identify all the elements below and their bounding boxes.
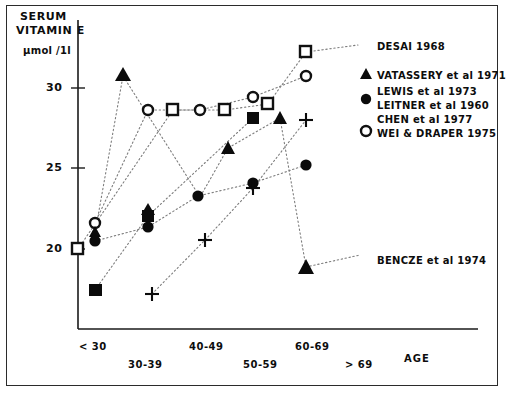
point-lewis-1 [89,284,102,296]
point-leitner-2 [142,221,153,232]
point-vatassery-6 [298,259,314,274]
series-line-bencze-tail [306,255,360,267]
legend-marker-filled-circle-icon [361,94,371,104]
point-desai-4 [262,98,273,109]
point-leitner-3 [192,190,203,201]
marker-group-desai [72,46,311,254]
legend-marker-triangle-icon [360,68,372,79]
point-vatassery-4 [221,141,235,154]
series-line-desai [78,52,306,249]
point-vatassery-5 [273,111,287,124]
point-leitner-1 [89,235,100,246]
point-wei-3 [195,105,205,115]
point-leitner-5 [300,159,311,170]
marker-group-chen [145,113,313,301]
point-desai-1 [72,243,83,254]
marker-group-vatassery [89,67,314,274]
legend-marker-open-circle-icon [361,126,371,136]
point-lewis-3 [247,112,259,124]
marker-group-wei-draper [90,71,311,228]
point-desai-2 [167,104,178,115]
point-vatassery-2 [115,67,131,81]
series-line-leitner [95,165,306,241]
point-wei-5 [301,71,311,81]
marker-group-lewis [89,112,259,296]
point-lewis-2 [142,210,154,222]
point-vatassery-1 [89,226,101,237]
point-desai-5 [300,46,311,57]
point-wei-2 [143,105,153,115]
series-line-desai-tail [306,45,358,52]
point-wei-4 [248,92,258,102]
point-desai-3 [219,104,230,115]
